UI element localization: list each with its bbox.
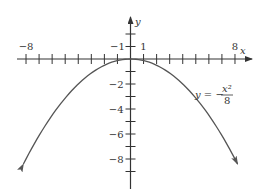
x-tick-label: 1	[140, 41, 146, 52]
x-tick-label: −8	[19, 41, 34, 52]
equation-numerator: x²	[222, 83, 232, 94]
axes	[17, 17, 252, 189]
y-tick-label: −8	[109, 154, 124, 165]
parabola-chart: −8−118−2−4−6−8 x y y = − x² 8	[0, 0, 264, 192]
x-tick-label: −1	[110, 41, 125, 52]
equation-denominator: 8	[224, 95, 230, 106]
x-tick-label: 8	[232, 41, 238, 52]
y-tick-label: −6	[109, 129, 124, 140]
x-axis-label: x	[240, 45, 246, 56]
equation-lhs: y = −	[194, 89, 224, 100]
y-axis-label: y	[134, 16, 141, 27]
y-tick-label: −4	[109, 104, 124, 115]
y-tick-label: −2	[109, 79, 124, 90]
